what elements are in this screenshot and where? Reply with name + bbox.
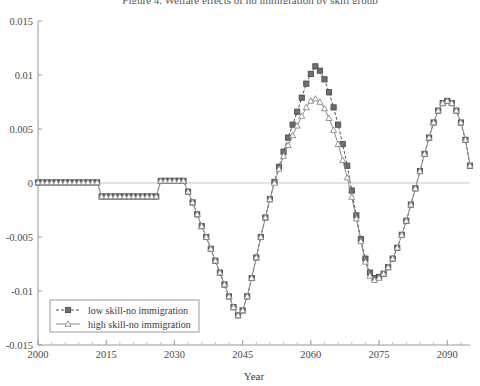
data-point-marker: [326, 90, 331, 95]
data-point-marker: [295, 109, 300, 114]
data-point-marker: [317, 68, 322, 73]
data-point-marker: [304, 81, 309, 86]
legend-entry-label: high skill-no immigration: [88, 319, 191, 330]
y-tick-label: -0.01: [11, 286, 33, 297]
data-point-marker: [331, 105, 336, 110]
x-tick-label: 2090: [437, 349, 458, 360]
x-tick-label: 2030: [164, 349, 185, 360]
x-tick-label: 2060: [300, 349, 321, 360]
x-tick-label: 2000: [28, 349, 49, 360]
y-tick-label: 0.015: [9, 16, 33, 27]
y-tick-label: 0.005: [9, 124, 33, 135]
data-point-marker: [299, 95, 304, 100]
data-point-marker: [308, 71, 313, 76]
x-tick-label: 2075: [369, 349, 390, 360]
y-tick-label: 0: [28, 178, 33, 189]
chart-figure: Figure 4. Welfare effects of no immigrat…: [0, 0, 480, 386]
data-point-marker: [322, 77, 327, 82]
legend-entry-label: low skill-no immigration: [88, 305, 188, 316]
legend-marker-sample: [65, 307, 70, 312]
chart-plot-area: -0.015-0.01-0.00500.0050.010.015 2000201…: [0, 0, 480, 386]
data-point-marker: [336, 122, 341, 127]
x-axis-title: Year: [244, 370, 265, 382]
data-point-marker: [345, 163, 350, 168]
x-tick-label: 2015: [96, 349, 117, 360]
data-point-marker: [290, 122, 295, 127]
chart-legend: low skill-no immigrationhigh skill-no im…: [50, 300, 199, 332]
y-tick-label: -0.005: [6, 232, 33, 243]
x-tick-label: 2045: [232, 349, 253, 360]
y-tick-label: 0.01: [15, 70, 33, 81]
